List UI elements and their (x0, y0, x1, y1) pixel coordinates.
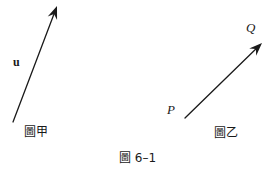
vector-pq-group (185, 43, 262, 118)
vector-pq-shaft (185, 48, 257, 118)
point-q-label: Q (246, 21, 255, 34)
point-p-label: P (167, 103, 175, 116)
figure-caption: 圖 6–1 (119, 152, 156, 164)
panel-yi-caption: 圖乙 (214, 127, 238, 139)
figure-container: u P Q 圖甲 圖乙 圖 6–1 (0, 0, 278, 174)
vector-diagram-canvas (0, 0, 278, 174)
vector-u-label: u (13, 56, 20, 68)
panel-jia-caption: 圖甲 (24, 126, 48, 138)
